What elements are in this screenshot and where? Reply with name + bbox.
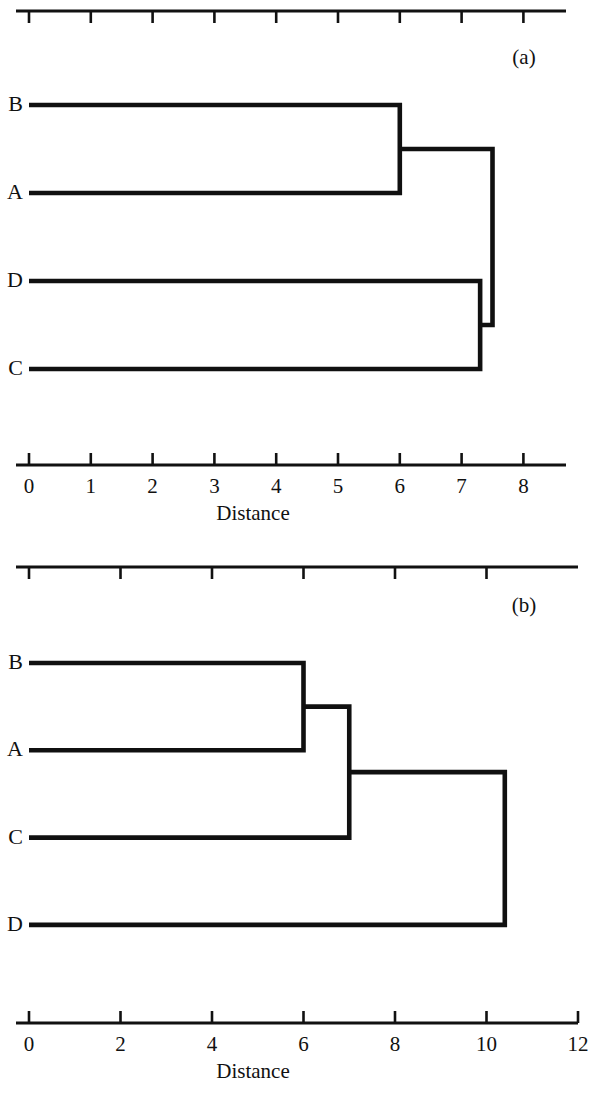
dendrogram-links xyxy=(29,105,493,369)
leaf-label-b: B xyxy=(8,91,23,116)
x-axis-title: Distance xyxy=(216,501,289,525)
x-axis-tick-label: 8 xyxy=(390,1032,401,1056)
panel-tag-label: (b) xyxy=(512,593,537,617)
top-axis xyxy=(16,11,566,23)
leaf-labels: BACD xyxy=(7,649,23,936)
x-axis-tick-label: 10 xyxy=(476,1032,497,1056)
bottom-axis: 024681012Distance xyxy=(16,1011,589,1083)
leaf-labels: BADC xyxy=(7,91,23,380)
x-axis-tick-label: 0 xyxy=(24,1032,35,1056)
leaf-label-c: C xyxy=(8,355,23,380)
x-axis-tick-label: 8 xyxy=(518,474,529,498)
leaf-label-c: C xyxy=(8,824,23,849)
dendrogram-figure: 012345678Distance(a)BADC 024681012Distan… xyxy=(0,0,589,1095)
x-axis-tick-label: 1 xyxy=(86,474,97,498)
x-axis-tick-label: 6 xyxy=(298,1032,309,1056)
leaf-label-a: A xyxy=(7,736,23,761)
leaf-label-b: B xyxy=(8,649,23,674)
top-axis xyxy=(16,567,578,579)
x-axis-tick-label: 2 xyxy=(115,1032,126,1056)
leaf-label-d: D xyxy=(7,911,23,936)
x-axis-tick-label: 7 xyxy=(456,474,467,498)
x-axis-tick-label: 3 xyxy=(209,474,220,498)
x-axis-tick-label: 0 xyxy=(24,474,35,498)
x-axis-tick-label: 4 xyxy=(207,1032,218,1056)
dendro-link-m2 xyxy=(29,281,480,369)
panel-a-plot: 012345678Distance(a)BADC xyxy=(0,0,589,540)
x-axis-tick-label: 6 xyxy=(395,474,406,498)
x-axis-tick-label: 4 xyxy=(271,474,282,498)
x-axis-tick-label: 5 xyxy=(333,474,344,498)
x-axis-tick-label: 2 xyxy=(147,474,158,498)
leaf-label-d: D xyxy=(7,267,23,292)
leaf-label-a: A xyxy=(7,179,23,204)
dendro-link-m1 xyxy=(29,663,304,750)
bottom-axis: 012345678Distance xyxy=(16,453,566,525)
x-axis-tick-label: 12 xyxy=(568,1032,589,1056)
dendro-link-m3 xyxy=(29,772,505,925)
x-axis-title: Distance xyxy=(216,1059,289,1083)
dendro-link-m1 xyxy=(29,105,400,193)
panel-b: 024681012Distance(b)BACD xyxy=(0,545,589,1095)
panel-tag-label: (a) xyxy=(512,45,535,69)
panel-a: 012345678Distance(a)BADC xyxy=(0,0,589,540)
dendrogram-links xyxy=(29,663,505,925)
panel-b-plot: 024681012Distance(b)BACD xyxy=(0,545,589,1095)
